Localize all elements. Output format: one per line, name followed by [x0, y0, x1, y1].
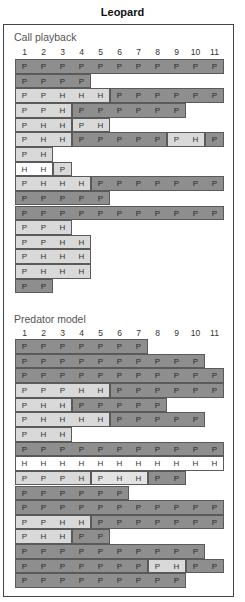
cell-p: P [34, 192, 53, 205]
cell-p: P [15, 384, 34, 397]
cell-p: P [129, 443, 148, 456]
cell-p: P [110, 501, 129, 514]
cell-p: P [167, 133, 186, 146]
cell-p: P [167, 472, 186, 485]
cell-p: P [72, 60, 91, 73]
cell-p: P [186, 501, 205, 514]
cell-h: H [72, 457, 91, 470]
cell-p: P [72, 207, 91, 220]
cell-p: P [148, 60, 167, 73]
cell-p: P [110, 177, 129, 190]
cell-h: H [34, 428, 53, 441]
cell-p: P [148, 104, 167, 117]
cell-p: P [167, 104, 186, 117]
column-number: 7 [129, 47, 148, 57]
cell-h: H [91, 457, 110, 470]
sequence-segment-dark: PPPPPPP [15, 339, 148, 354]
cell-p: P [186, 516, 205, 529]
column-number: 6 [110, 47, 129, 57]
cell-p: P [34, 89, 53, 102]
cell-p: P [15, 369, 34, 382]
cell-p: P [34, 487, 53, 500]
cell-p: P [72, 574, 91, 587]
cell-h: H [148, 457, 167, 470]
cell-p: P [15, 119, 34, 132]
column-number: 6 [110, 328, 129, 338]
cell-p: P [167, 60, 186, 73]
cell-p: P [34, 501, 53, 514]
cell-p: P [91, 340, 110, 353]
cell-p: P [72, 133, 91, 146]
cell-p: P [34, 104, 53, 117]
cell-h: H [34, 413, 53, 426]
cell-h: H [53, 265, 72, 278]
cell-p: P [129, 413, 148, 426]
cell-p: P [91, 60, 110, 73]
cell-p: P [91, 443, 110, 456]
cell-p: P [53, 574, 72, 587]
cell-p: P [15, 133, 34, 146]
cell-p: P [205, 133, 224, 146]
cell-p: P [91, 560, 110, 573]
cell-p: P [167, 574, 186, 587]
cell-p: P [91, 133, 110, 146]
cell-p: P [53, 60, 72, 73]
cell-p: P [148, 355, 167, 368]
cell-p: P [34, 574, 53, 587]
cell-p: P [15, 443, 34, 456]
column-number: 9 [167, 47, 186, 57]
cell-h: H [53, 530, 72, 543]
cell-h: H [53, 89, 72, 102]
cell-p: P [205, 501, 224, 514]
cell-p: P [91, 501, 110, 514]
sequence-segment-light: PHHHH [15, 412, 110, 427]
cell-p: P [129, 133, 148, 146]
cell-p: P [15, 280, 34, 293]
cell-p: P [34, 369, 53, 382]
cell-p: P [167, 413, 186, 426]
cell-h: H [53, 104, 72, 117]
cell-p: P [72, 340, 91, 353]
cell-p: P [167, 355, 186, 368]
cell-h: H [34, 265, 53, 278]
cell-p: P [186, 443, 205, 456]
cell-p: P [34, 60, 53, 73]
cell-p: P [186, 413, 205, 426]
sequence-segment-light: PHHH [15, 176, 91, 191]
cell-p: P [15, 192, 34, 205]
cell-p: P [34, 207, 53, 220]
cell-p: P [205, 207, 224, 220]
cell-p: P [53, 207, 72, 220]
cell-p: P [110, 340, 129, 353]
cell-p: P [53, 545, 72, 558]
cell-p: P [186, 545, 205, 558]
cell-p: P [91, 177, 110, 190]
cell-h: H [186, 457, 205, 470]
cell-h: H [53, 177, 72, 190]
cell-p: P [110, 413, 129, 426]
cell-p: P [110, 443, 129, 456]
sequence-segment-dark: PPPPPP [110, 383, 224, 398]
cell-p: P [34, 280, 53, 293]
sequence-segment-dark: PPPPPPPPPPP [15, 500, 224, 515]
cell-p: P [15, 399, 34, 412]
cell-p: P [53, 501, 72, 514]
cell-h: H [34, 119, 53, 132]
cell-p: P [110, 516, 129, 529]
cell-p: P [34, 545, 53, 558]
sequence-segment-light: PHH [15, 398, 72, 413]
cell-p: P [15, 428, 34, 441]
cell-p: P [15, 516, 34, 529]
sequence-segment-light: PPH [15, 103, 72, 118]
cell-p: P [53, 163, 72, 176]
cell-p: P [72, 399, 91, 412]
cell-p: P [53, 192, 72, 205]
column-number: 9 [167, 328, 186, 338]
cell-h: H [72, 413, 91, 426]
cell-p: P [110, 369, 129, 382]
cell-p: P [148, 384, 167, 397]
cell-p: P [148, 133, 167, 146]
cell-h: H [72, 384, 91, 397]
cell-p: P [72, 560, 91, 573]
sequence-segment-light: PHHH [15, 249, 91, 264]
